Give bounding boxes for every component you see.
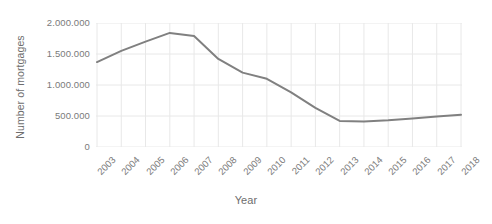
chart-screenshot: Number of mortgages 2.000.000 1.500.000 … <box>0 0 492 224</box>
x-axis-title: Year <box>0 194 492 206</box>
x-axis-tick-labels: 2003200420052006200720082009201020112012… <box>0 0 492 224</box>
